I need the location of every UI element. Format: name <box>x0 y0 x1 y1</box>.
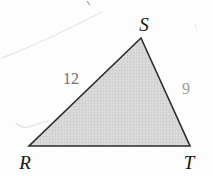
side-length-label-rs: 12 <box>63 70 79 87</box>
triangle-figure-svg: S R T 12 9 <box>0 0 213 176</box>
scan-artifact-squiggle <box>16 121 49 127</box>
scan-artifact-smudge <box>2 12 102 58</box>
vertex-label-r: R <box>18 152 31 173</box>
scan-artifact-tick-right <box>195 24 197 30</box>
triangle-shape <box>29 38 190 146</box>
vertex-label-t: T <box>184 152 196 173</box>
scan-artifact-tick-top <box>87 1 90 5</box>
triangle-diagram: S R T 12 9 <box>0 0 213 176</box>
side-length-label-st: 9 <box>182 80 190 97</box>
vertex-label-s: S <box>139 14 149 35</box>
